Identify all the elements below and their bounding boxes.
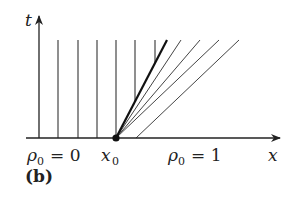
origin-point — [112, 134, 119, 141]
left-region-label: ρ 0 = 0 — [26, 145, 80, 168]
svg-text:0: 0 — [178, 155, 185, 168]
svg-text:= 1: = 1 — [191, 145, 221, 165]
diagonal-characteristic — [116, 40, 181, 138]
origin-label: x 0 — [101, 145, 119, 168]
panel-label: (b) — [25, 166, 53, 186]
right-region-label: ρ 0 = 1 — [167, 145, 221, 168]
svg-text:ρ: ρ — [167, 145, 178, 165]
svg-text:ρ: ρ — [26, 145, 37, 165]
t-axis-label: t — [25, 10, 32, 30]
shock-line — [116, 40, 167, 138]
x-axis-label: x — [268, 145, 278, 165]
svg-text:0: 0 — [112, 155, 119, 168]
characteristics-diagram: t x ρ 0 = 0 x 0 ρ 0 = 1 (b) — [0, 0, 287, 199]
figure-panel: t x ρ 0 = 0 x 0 ρ 0 = 1 (b) — [0, 0, 287, 199]
diagonal-characteristic — [116, 40, 219, 138]
svg-text:x: x — [101, 145, 111, 165]
svg-text:= 0: = 0 — [50, 145, 80, 165]
